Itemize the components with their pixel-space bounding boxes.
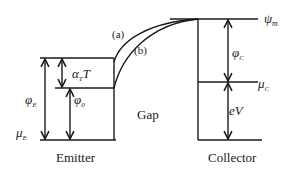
gap-label: Gap: [137, 107, 159, 122]
curve-b-label: (b): [134, 44, 147, 57]
mu-e-label: μE: [15, 125, 28, 142]
alpha-t-label: αTT: [72, 66, 91, 83]
barrier-curve-b: [114, 19, 198, 88]
phi-c-label: φC: [232, 45, 244, 62]
barrier-curve-a: [114, 19, 198, 62]
collector-label: Collector: [208, 150, 257, 165]
psi-m-label: ψm: [264, 11, 278, 28]
curve-a-label: (a): [112, 28, 125, 41]
energy-diagram: ψm (a) (b) αTT φE φ0 μE φC μC eV Gap Emi…: [0, 0, 290, 170]
phi-0-label: φ0: [74, 92, 85, 109]
mu-c-label: μC: [257, 76, 270, 93]
ev-label: eV: [229, 103, 245, 118]
phi-e-label: φE: [25, 92, 37, 109]
emitter-label: Emitter: [56, 150, 96, 165]
